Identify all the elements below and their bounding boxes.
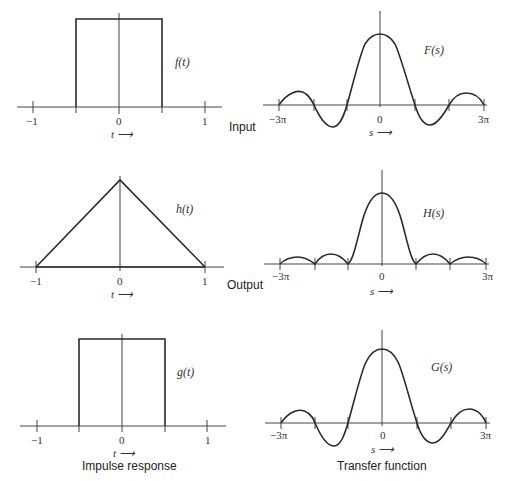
- tick-label: 0: [119, 434, 125, 446]
- function-label: h(t): [176, 202, 193, 217]
- plot-H: [264, 170, 489, 270]
- x-variable: s ⟶: [370, 285, 393, 297]
- tick-label: 3π: [478, 113, 489, 125]
- function-label: H(s): [423, 206, 444, 221]
- x-axis-label: t ⟶: [111, 128, 133, 141]
- plot-g: [20, 334, 226, 432]
- plot-h: [20, 176, 224, 273]
- x-variable: t ⟶: [113, 447, 135, 459]
- plot-F: [263, 11, 487, 127]
- x-axis-label: s ⟶: [371, 443, 394, 456]
- tick-label: −1: [31, 434, 43, 446]
- x-axis-label: s ⟶: [370, 285, 393, 298]
- tick-label: −3π: [269, 113, 286, 125]
- function-label: f(t): [175, 55, 190, 70]
- x-axis-label: t ⟶: [111, 288, 133, 301]
- function-label: g(t): [177, 365, 194, 380]
- tick-label: 0: [116, 115, 122, 127]
- caption-transfer-function: Transfer function: [337, 459, 427, 473]
- tick-label: 0: [117, 275, 123, 287]
- tick-label: 1: [202, 275, 208, 287]
- tick-label: 0: [380, 429, 386, 441]
- tick-label: 1: [205, 434, 211, 446]
- function-label: G(s): [431, 360, 452, 375]
- x-variable: t ⟶: [111, 128, 133, 140]
- tick-label: −3π: [272, 270, 289, 282]
- x-axis-label: s ⟶: [369, 126, 392, 139]
- tick-label: 1: [202, 115, 208, 127]
- sinc-squared-curve: [280, 193, 486, 264]
- x-variable: s ⟶: [369, 126, 392, 138]
- figure-canvas: [0, 0, 509, 481]
- tick-label: −1: [26, 115, 38, 127]
- caption-impulse-response: Impulse response: [82, 459, 177, 473]
- function-label: F(s): [424, 43, 444, 58]
- tick-label: 0: [379, 270, 385, 282]
- plot-G: [265, 330, 490, 446]
- plot-f: [17, 13, 222, 114]
- tick-label: 3π: [480, 429, 491, 441]
- x-variable: s ⟶: [371, 443, 394, 455]
- row-label-input: Input: [229, 120, 256, 134]
- tick-label: 0: [377, 113, 383, 125]
- tick-label: 3π: [482, 270, 493, 282]
- x-variable: t ⟶: [111, 288, 133, 300]
- tick-label: −1: [30, 275, 42, 287]
- tick-label: −3π: [270, 429, 287, 441]
- row-label-output: Output: [227, 278, 263, 292]
